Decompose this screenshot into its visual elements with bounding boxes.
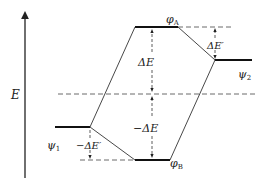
psi-2-label: ψ2 xyxy=(238,68,251,82)
energy-axis-label: E xyxy=(10,88,20,102)
minus-delta-E-prime-label: −ΔE′ xyxy=(76,140,102,151)
psi-1-label: ψ1 xyxy=(47,139,60,153)
delta-E-prime-label: ΔE′ xyxy=(206,40,225,51)
delta-E-label: ΔE xyxy=(137,56,154,69)
orbital-energy-diagram: E ΔE −ΔE ΔE′ −ΔE′ φA ψ2 ψ1 φB xyxy=(0,0,268,182)
phi-B-label: φB xyxy=(170,157,183,171)
correlation-lines xyxy=(90,27,215,160)
phi-A-label: φA xyxy=(166,13,180,27)
minus-delta-E-label: −ΔE xyxy=(133,122,158,135)
